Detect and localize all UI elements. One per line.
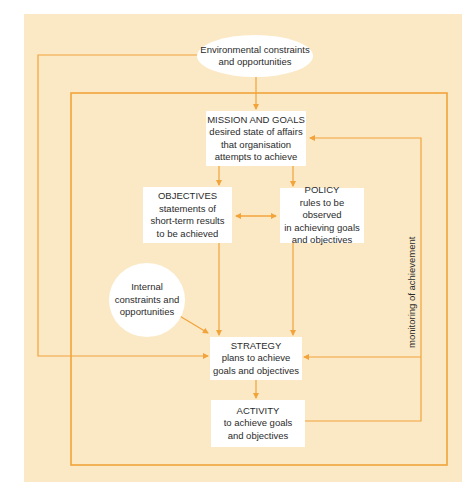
internal-line-3: opportunities — [120, 306, 174, 319]
mission-line-1: desired state of affairs — [209, 126, 302, 139]
objectives-title: OBJECTIVES — [158, 190, 217, 203]
mission-line-2: that organisation — [221, 139, 291, 152]
objectives-node: OBJECTIVES statements of short-term resu… — [143, 187, 232, 243]
internal-line-1: Internal — [131, 281, 163, 294]
monitoring-label: monitoring of achievement — [406, 237, 417, 348]
objectives-line-3: to be achieved — [157, 228, 219, 241]
policy-line-1: rules to be observed — [280, 197, 364, 222]
activity-title: ACTIVITY — [237, 405, 280, 418]
strategy-node: STRATEGY plans to achieve goals and obje… — [210, 337, 302, 380]
environmental-node: Environmental constraints and opportunit… — [197, 35, 313, 77]
environmental-line-2: and opportunities — [219, 56, 292, 69]
internal-line-2: constraints and — [115, 294, 179, 307]
internal-node: Internal constraints and opportunities — [109, 263, 185, 337]
objectives-line-1: statements of — [159, 203, 216, 216]
policy-line-3: and objectives — [292, 234, 353, 247]
strategy-title: STRATEGY — [231, 340, 282, 353]
strategy-line-1: plans to achieve — [222, 352, 291, 365]
environmental-line-1: Environmental constraints — [200, 44, 309, 57]
mission-line-3: attempts to achieve — [215, 151, 297, 164]
activity-line-1: to achieve goals — [224, 417, 293, 430]
strategy-line-2: goals and objectives — [213, 365, 299, 378]
activity-line-2: and objectives — [228, 430, 289, 443]
objectives-line-2: short-term results — [151, 215, 225, 228]
mission-title: MISSION AND GOALS — [207, 114, 305, 127]
policy-line-2: in achieving goals — [284, 222, 360, 235]
mission-node: MISSION AND GOALS desired state of affai… — [206, 111, 306, 166]
activity-node: ACTIVITY to achieve goals and objectives — [211, 400, 305, 447]
policy-node: POLICY rules to be observed in achieving… — [280, 188, 364, 243]
policy-title: POLICY — [305, 184, 340, 197]
